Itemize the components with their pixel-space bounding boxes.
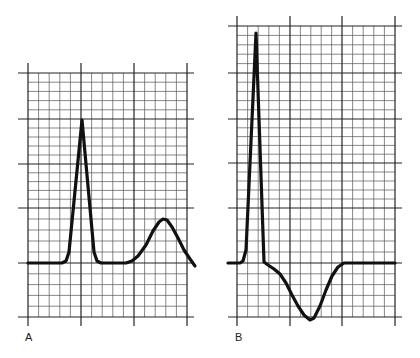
panel-a-label: A: [25, 331, 32, 343]
panel-b-label: B: [235, 331, 242, 343]
panel-a-ecg-grid: [18, 63, 195, 326]
ecg-figure: [0, 0, 420, 358]
ecg-trace: [228, 33, 395, 320]
ecg-trace: [28, 120, 195, 266]
panel-b-ecg-grid: [228, 16, 402, 326]
